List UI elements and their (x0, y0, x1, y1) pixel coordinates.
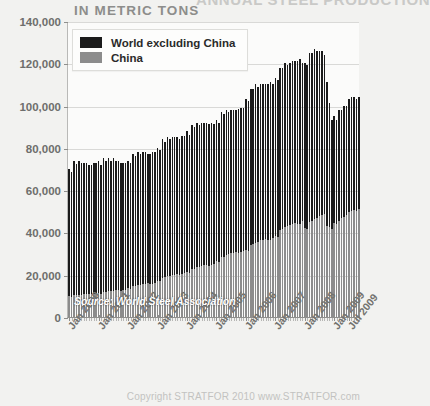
bar-segment-world-excluding-china (326, 82, 328, 226)
x-axis-tick-mark (268, 318, 269, 321)
bar-segment-world-excluding-china (201, 123, 203, 266)
x-axis-tick-mark (204, 318, 205, 321)
bar-column (230, 110, 232, 317)
bar-column (221, 112, 223, 317)
bar-segment-china (213, 264, 215, 317)
bar-segment-china (248, 251, 250, 317)
x-axis-tick-mark (148, 318, 149, 321)
bar-segment-china (216, 261, 218, 317)
bar-segment-world-excluding-china (206, 123, 208, 266)
bar-column (164, 142, 166, 317)
x-axis-tick-mark (293, 318, 294, 321)
legend-label-world-excluding-china: World excluding China (111, 37, 235, 49)
bar-column (211, 123, 213, 318)
bar-segment-world-excluding-china (358, 97, 360, 209)
bar-column (76, 164, 78, 317)
bar-column (324, 55, 326, 317)
bar-column (289, 63, 291, 317)
x-axis-tick-mark (239, 318, 240, 321)
y-axis-tick-label: 20,000 (0, 270, 61, 282)
bar-column (343, 106, 345, 317)
x-axis-tick-mark (177, 318, 178, 321)
bar-segment-world-excluding-china (238, 109, 240, 253)
bar-segment-world-excluding-china (167, 137, 169, 276)
x-axis-tick-mark (295, 318, 296, 321)
bar-segment-world-excluding-china (174, 137, 176, 274)
legend-swatch-china (80, 52, 102, 63)
bar-column (142, 152, 144, 317)
bar-column (184, 136, 186, 317)
x-axis-tick-mark (116, 318, 117, 321)
bar-column (235, 110, 237, 317)
bar-column (302, 63, 304, 317)
bar-segment-world-excluding-china (216, 120, 218, 261)
bar-segment-world-excluding-china (351, 97, 353, 211)
bar-segment-china (277, 237, 279, 317)
bar-segment-world-excluding-china (302, 63, 304, 221)
bar-segment-world-excluding-china (199, 125, 201, 267)
bar-column (306, 65, 308, 317)
bar-column (267, 84, 269, 317)
bar-column (294, 61, 296, 317)
x-axis-tick-mark (297, 318, 298, 321)
x-axis-tick-mark (329, 318, 330, 321)
bar-column (250, 89, 252, 317)
bar-segment-world-excluding-china (137, 152, 139, 285)
bar-segment-world-excluding-china (304, 63, 306, 228)
bar-column (169, 139, 171, 317)
bar-segment-world-excluding-china (105, 161, 107, 292)
x-axis-tick-mark (212, 318, 213, 321)
bar-segment-world-excluding-china (353, 97, 355, 210)
bar-segment-world-excluding-china (211, 123, 213, 266)
bar-column (201, 123, 203, 318)
bar-column (110, 161, 112, 317)
y-axis-tick-label: 120,000 (0, 58, 61, 70)
legend-item-china: China (80, 50, 235, 65)
bar-segment-world-excluding-china (267, 84, 269, 240)
bar-column (159, 150, 161, 317)
bar-segment-world-excluding-china (230, 110, 232, 253)
bar-column (336, 120, 338, 317)
bar-segment-world-excluding-china (76, 164, 78, 296)
bar-segment-world-excluding-china (71, 172, 73, 297)
bar-segment-world-excluding-china (346, 106, 348, 216)
bar-segment-world-excluding-china (83, 163, 85, 295)
bar-segment-world-excluding-china (191, 125, 193, 269)
x-axis-tick-mark (327, 318, 328, 321)
chart-legend: World excluding China China (72, 29, 248, 71)
bar-column (346, 106, 348, 317)
bar-segment-china (68, 296, 70, 317)
bar-segment-world-excluding-china (356, 99, 358, 211)
bar-segment-world-excluding-china (115, 161, 117, 291)
bar-segment-china (333, 223, 335, 317)
bar-segment-world-excluding-china (250, 89, 252, 246)
bar-segment-world-excluding-china (189, 135, 191, 272)
bar-segment-world-excluding-china (103, 158, 105, 291)
bar-column (81, 163, 83, 317)
bar-segment-world-excluding-china (262, 84, 264, 240)
bar-column (186, 131, 188, 317)
bar-column (83, 163, 85, 317)
bar-segment-world-excluding-china (159, 150, 161, 281)
bar-segment-world-excluding-china (81, 163, 83, 295)
bar-segment-world-excluding-china (130, 163, 132, 289)
bar-column (248, 101, 250, 317)
bar-segment-world-excluding-china (235, 110, 237, 252)
bar-segment-world-excluding-china (140, 154, 142, 284)
bar-segment-world-excluding-china (297, 61, 299, 224)
bar-column (297, 61, 299, 317)
bar-segment-world-excluding-china (260, 84, 262, 240)
bar-segment-world-excluding-china (93, 163, 95, 295)
bar-column (115, 161, 117, 317)
bar-segment-china (218, 262, 220, 317)
bar-column (275, 78, 277, 317)
bar-column (172, 137, 174, 317)
legend-swatch-world-excluding-china (80, 37, 102, 48)
bar-segment-world-excluding-china (311, 53, 313, 221)
bar-segment-world-excluding-china (299, 59, 301, 224)
bar-segment-world-excluding-china (162, 139, 164, 277)
bar-segment-world-excluding-china (292, 61, 294, 224)
x-axis-tick-mark (94, 318, 95, 321)
bar-column (309, 53, 311, 317)
bar-segment-world-excluding-china (91, 165, 93, 295)
